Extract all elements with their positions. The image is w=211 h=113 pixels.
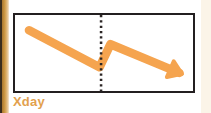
trend-arrowhead-icon — [167, 61, 182, 77]
x-axis-label: Xday — [13, 95, 45, 109]
screenshot-root: Xday — [0, 0, 211, 113]
chart-panel — [13, 13, 195, 93]
page-right-tint — [201, 0, 211, 113]
trend-line-path — [29, 30, 179, 73]
page-edge-wood-strip — [2, 0, 9, 113]
trend-chart — [15, 15, 193, 91]
trend-arrow-icon — [29, 30, 182, 77]
